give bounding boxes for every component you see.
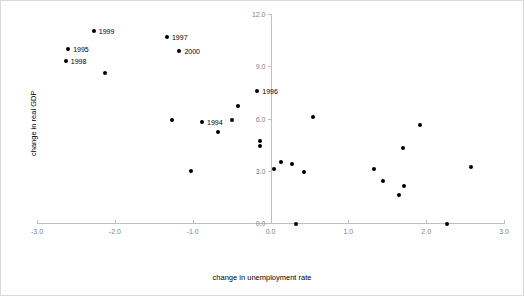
y-tick-mark (268, 223, 272, 224)
x-tick-mark (504, 220, 505, 224)
y-tick-mark (268, 66, 272, 67)
x-tick-mark (348, 220, 349, 224)
x-tick-mark (426, 220, 427, 224)
data-point (255, 89, 259, 93)
x-tick-label: 2.0 (421, 228, 431, 235)
data-point-label: 2000 (184, 47, 200, 54)
y-tick-label: 6.0 (244, 115, 266, 122)
y-tick-mark (268, 119, 272, 120)
data-point (200, 120, 204, 124)
scatter-plot: -3.0-2.0-1.00.01.02.03.00.03.06.09.012.0… (1, 1, 523, 295)
data-point-label: 1996 (262, 87, 278, 94)
x-tick-mark (193, 220, 194, 224)
data-point (372, 167, 376, 171)
x-tick-label: -2.0 (109, 228, 121, 235)
x-tick-label: 0.0 (266, 228, 276, 235)
data-point (294, 222, 298, 226)
data-point-label: 1997 (172, 33, 188, 40)
data-point-label: 1995 (73, 45, 89, 52)
y-axis-title: change in real GDP (29, 91, 38, 156)
data-point (397, 193, 401, 197)
y-tick-mark (268, 171, 272, 172)
chart-frame: -3.0-2.0-1.00.01.02.03.00.03.06.09.012.0… (0, 0, 524, 296)
y-tick-label: 3.0 (244, 167, 266, 174)
data-point (165, 35, 169, 39)
y-tick-label: 9.0 (244, 63, 266, 70)
y-tick-label: 0.0 (244, 220, 266, 227)
data-point (258, 144, 262, 148)
data-point (402, 184, 406, 188)
data-point (230, 118, 234, 122)
data-point (401, 146, 405, 150)
data-point (272, 167, 276, 171)
data-point-label: 1999 (99, 28, 115, 35)
data-point (236, 104, 240, 108)
y-tick-label: 12.0 (244, 11, 266, 18)
data-point (216, 130, 220, 134)
x-tick-label: 3.0 (499, 228, 509, 235)
data-point (189, 169, 193, 173)
x-axis-title: change in unemployment rate (1, 273, 523, 282)
data-point (279, 160, 283, 164)
x-tick-label: 1.0 (343, 228, 353, 235)
data-point (66, 47, 70, 51)
x-tick-label: -1.0 (187, 228, 199, 235)
x-tick-mark (37, 220, 38, 224)
data-point (170, 118, 174, 122)
data-point (311, 115, 315, 119)
data-point (258, 139, 262, 143)
data-point (418, 123, 422, 127)
x-tick-label: -3.0 (31, 228, 43, 235)
data-point-label: 1994 (207, 118, 223, 125)
data-point (64, 59, 68, 63)
data-point (92, 29, 96, 33)
data-point (302, 170, 306, 174)
data-point (177, 49, 181, 53)
data-point-label: 1998 (71, 58, 87, 65)
data-point (381, 179, 385, 183)
data-point (103, 71, 107, 75)
data-point (469, 165, 473, 169)
data-point (290, 162, 294, 166)
y-tick-mark (268, 14, 272, 15)
data-point (445, 222, 449, 226)
x-tick-mark (115, 220, 116, 224)
